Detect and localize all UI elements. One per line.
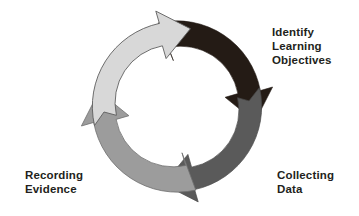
- stage-label-recording-evidence: Recording Evidence: [25, 168, 83, 196]
- cycle-diagram: Identify Learning Objectives Collecting …: [0, 0, 359, 216]
- stage-label-collecting-data: Collecting Data: [277, 168, 334, 196]
- arrow-segment-left: [92, 11, 190, 125]
- stage-label-identify-learning-objectives: Identify Learning Objectives: [272, 25, 332, 68]
